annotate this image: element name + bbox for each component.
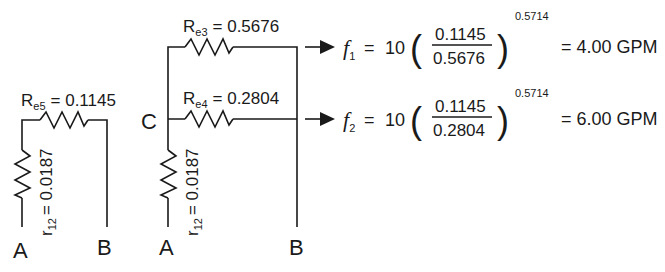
equation-f2: f2 = 10 ( 0.1145 0.2804 ) 0.5714 = 6.00 … — [343, 87, 658, 141]
arrow-icon — [305, 112, 335, 126]
resistor-r12-label: r12= 0.0187 — [37, 148, 58, 236]
resistor-re4-label: Re4= 0.2804 — [183, 89, 279, 110]
numerator: 0.1145 — [435, 97, 486, 116]
resistor-r12-label: r12= 0.0187 — [183, 148, 204, 236]
node-a-label: A — [159, 235, 174, 260]
coefficient: 10 — [385, 110, 405, 130]
result: = 6.00 GPM — [561, 109, 658, 129]
node-b-label: B — [97, 235, 112, 260]
resistor-re3-label: Re3= 0.5676 — [183, 17, 279, 38]
result: = 4.00 GPM — [561, 37, 658, 57]
left-paren: ( — [410, 100, 422, 141]
left-paren: ( — [410, 28, 422, 69]
right-paren: ) — [497, 100, 509, 141]
arrow-icon — [305, 40, 335, 54]
equals-sign: = — [364, 38, 375, 58]
denominator: 0.2804 — [433, 121, 485, 140]
equals-sign: = — [364, 110, 375, 130]
node-b-label: B — [289, 235, 304, 260]
resistor-r12-symbol — [15, 150, 30, 198]
resistor-re4-symbol — [185, 111, 233, 127]
flow-variable: f2 — [343, 107, 355, 134]
resistor-re5-label: Re5= 0.1145 — [21, 91, 116, 112]
right-paren: ) — [497, 28, 509, 69]
right-circuit: Re3= 0.5676 Re4= 0.2804 r12= 0.0187 C A … — [141, 17, 335, 260]
resistor-re3-symbol — [185, 39, 233, 55]
numerator: 0.1145 — [435, 25, 486, 44]
denominator: 0.5676 — [433, 49, 485, 68]
node-c-label: C — [141, 109, 157, 134]
left-circuit-wire — [22, 120, 107, 227]
coefficient: 10 — [385, 38, 405, 58]
flow-variable: f1 — [343, 35, 355, 62]
exponent: 0.5714 — [515, 10, 549, 22]
resistor-re5-symbol — [40, 112, 88, 128]
exponent: 0.5714 — [515, 87, 549, 99]
node-a-label: A — [13, 238, 28, 263]
left-circuit: Re5= 0.1145 r12= 0.0187 A B — [13, 91, 116, 263]
equation-f1: f1 = 10 ( 0.1145 0.5676 ) 0.5714 = 4.00 … — [343, 10, 658, 69]
flow-network-diagram: Re5= 0.1145 r12= 0.0187 A B Re3= 0.5676 … — [0, 0, 665, 272]
resistor-r12-symbol — [161, 150, 176, 198]
